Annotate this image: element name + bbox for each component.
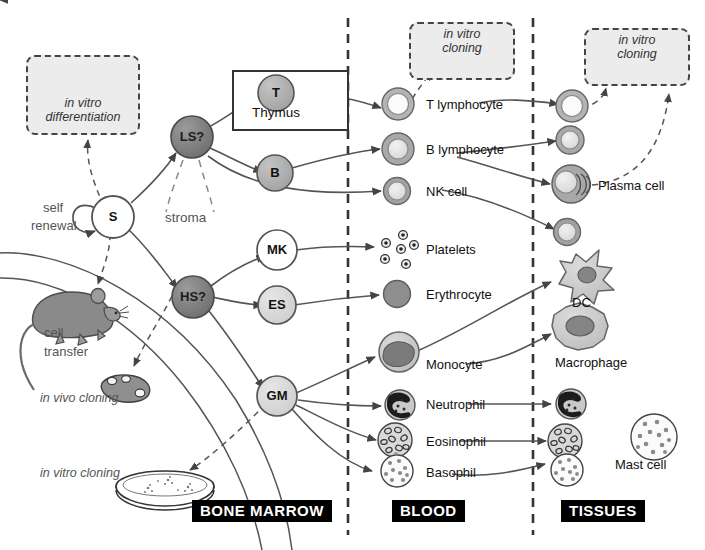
node-ls-label: LS? bbox=[172, 129, 212, 144]
dc-label: DC bbox=[572, 295, 591, 310]
b-lymphocyte-label: B lymphocyte bbox=[426, 142, 504, 157]
in-vivo-cloning-label: in vivo cloning bbox=[40, 391, 119, 405]
cell-platelets bbox=[381, 231, 419, 269]
eosinophil-label: Eosinophil bbox=[426, 434, 486, 449]
cell-mast bbox=[631, 414, 677, 460]
node-t-label: T bbox=[266, 85, 286, 100]
node-mk-label: MK bbox=[259, 242, 295, 257]
node-hs-label: HS? bbox=[173, 289, 213, 304]
cell-basophil bbox=[381, 452, 413, 487]
cell-neutrophil bbox=[385, 390, 415, 420]
cell-t-lymphocyte bbox=[382, 88, 414, 120]
stroma-label: stroma bbox=[165, 210, 206, 225]
in-vitro-cloning-box-blood: in vitro cloning bbox=[409, 22, 515, 80]
in-vitro-differentiation-box: in vitro differentiation bbox=[26, 55, 140, 135]
in-vitro-cloning-blood-caption-line2: cloning bbox=[411, 42, 513, 55]
cell-tissue-eosinophil bbox=[548, 424, 582, 458]
cell-transfer-label-line1: cell bbox=[44, 325, 64, 340]
in-vitro-cloning-blood-caption-line1: in vitro bbox=[411, 28, 513, 41]
erythrocyte-label: Erythrocyte bbox=[426, 287, 492, 302]
cell-transfer-label-line2: transfer bbox=[44, 344, 88, 359]
cell-tissue-neutrophil bbox=[556, 389, 586, 419]
in-vitro-cloning-tissue-caption-line2: cloning bbox=[586, 48, 688, 61]
compartment-band-blood: BLOOD bbox=[392, 500, 465, 522]
in-vitro-cloning-dish-label: in vitro cloning bbox=[40, 466, 120, 480]
macrophage-icon bbox=[552, 303, 608, 350]
self-renewal-label-line1: self bbox=[43, 200, 63, 215]
cell-nk bbox=[384, 178, 411, 205]
cell-tissue-basophil bbox=[551, 454, 583, 486]
cell-plasma bbox=[552, 165, 591, 203]
cell-tissue-nk bbox=[554, 219, 581, 246]
in-vitro-differentiation-caption-line2: differentiation bbox=[28, 111, 138, 124]
cell-b-lymphocyte bbox=[382, 133, 414, 165]
basophil-label: Basophil bbox=[426, 465, 476, 480]
node-es-label: ES bbox=[260, 297, 294, 312]
compartment-band-tissues: TISSUES bbox=[561, 500, 645, 522]
monocyte-label: Monocyte bbox=[426, 357, 482, 372]
nk-cell-label: NK cell bbox=[426, 184, 467, 199]
thymus-label: Thymus bbox=[252, 105, 300, 120]
cell-tissue-t-lymphocyte bbox=[556, 90, 588, 122]
cell-erythrocyte bbox=[384, 281, 411, 308]
node-gm-label: GM bbox=[259, 388, 295, 403]
plasma-cell-label: Plasma cell bbox=[598, 178, 664, 193]
stroma-dashed-lines bbox=[166, 160, 214, 212]
neutrophil-label: Neutrophil bbox=[426, 397, 485, 412]
platelets-label: Platelets bbox=[426, 242, 476, 257]
t-lymphocyte-label: T lymphocyte bbox=[426, 97, 503, 112]
cell-tissue-b-lymphocyte bbox=[556, 126, 584, 154]
in-vitro-cloning-box-tissue: in vitro cloning bbox=[584, 28, 690, 86]
node-b-label: B bbox=[265, 165, 285, 180]
node-s-label: S bbox=[93, 209, 133, 224]
mast-cell-label: Mast cell bbox=[615, 457, 666, 472]
cell-eosinophil bbox=[378, 423, 412, 457]
self-renewal-label-line2: renewal bbox=[31, 218, 77, 233]
in-vitro-differentiation-caption-line1: in vitro bbox=[28, 97, 138, 110]
cell-monocyte bbox=[379, 332, 419, 372]
mouse-icon bbox=[21, 289, 130, 391]
compartment-divider-dashed bbox=[348, 18, 533, 535]
compartment-band-bone-marrow: BONE MARROW bbox=[192, 500, 332, 522]
in-vitro-cloning-tissue-caption-line1: in vitro bbox=[586, 34, 688, 47]
hematopoiesis-diagram: in vitro differentiation in vitro clonin… bbox=[0, 0, 705, 550]
macrophage-label: Macrophage bbox=[555, 355, 627, 370]
